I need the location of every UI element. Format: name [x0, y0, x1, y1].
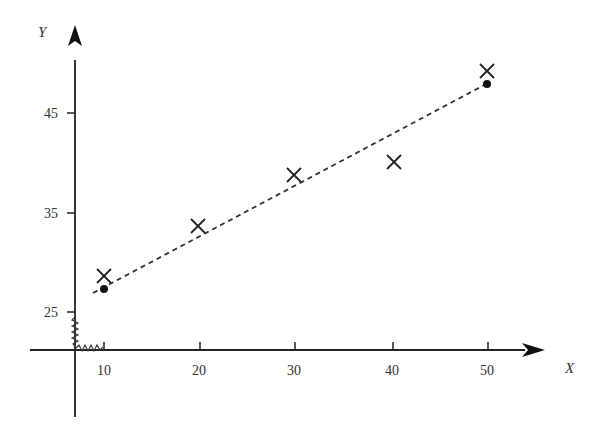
x-tick-label-50: 50 — [480, 363, 494, 378]
y-ticks — [67, 113, 75, 312]
x-tick-label-30: 30 — [287, 363, 301, 378]
regression-line — [93, 82, 490, 293]
x-tick-label-40: 40 — [385, 363, 399, 378]
fitted-point — [483, 80, 491, 88]
x-marker-icon — [287, 168, 301, 182]
x-tick-label-20: 20 — [192, 363, 206, 378]
x-marker-icon — [97, 269, 111, 283]
x-axis-label: X — [564, 360, 575, 376]
fitted-point — [100, 285, 108, 293]
y-tick-label-45: 45 — [44, 106, 58, 121]
x-ticks — [104, 342, 488, 350]
y-axis-arrow-icon — [68, 25, 82, 46]
x-tick-label-10: 10 — [97, 363, 111, 378]
regression-diagram: Y X 45 35 25 10 20 30 40 50 — [0, 0, 605, 428]
y-tick-label-25: 25 — [44, 305, 58, 320]
y-axis-label: Y — [38, 24, 48, 40]
observed-markers — [97, 64, 494, 283]
x-marker-icon — [387, 155, 401, 169]
x-axis-arrow-icon — [522, 343, 545, 357]
y-tick-label-35: 35 — [44, 206, 58, 221]
x-marker-icon — [191, 219, 205, 233]
x-marker-icon — [480, 64, 494, 78]
